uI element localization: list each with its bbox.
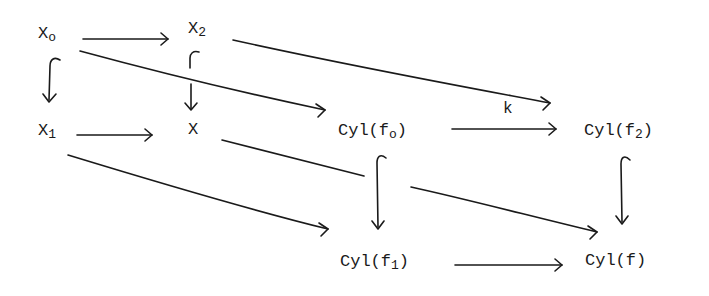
node-cylf: Cyl(f) — [585, 252, 646, 269]
inclusion-x0-to-x1 — [43, 58, 60, 102]
node-cylf1: Cyl(f1) — [340, 253, 409, 270]
node-cylf1-sub: 1 — [391, 258, 399, 273]
node-x: X — [188, 121, 198, 138]
commutative-diagram: Xo X2 X1 X Cyl(fo) Cyl(f2) Cyl(f1) Cyl(f… — [0, 0, 709, 296]
arrow-x-to-cylf — [222, 140, 597, 239]
node-cylf1-close: ) — [399, 252, 409, 271]
node-x1: X1 — [38, 122, 56, 139]
node-x2: X2 — [188, 20, 206, 37]
arrow-x1-to-x — [77, 129, 152, 141]
arrow-cylf1-to-cylf — [455, 259, 562, 271]
node-cylf2-base: Cyl(f — [584, 121, 635, 140]
arrow-x0-to-x2 — [83, 33, 168, 45]
arrow-cylf0-to-cylf2 — [452, 123, 556, 135]
node-x1-sub: 1 — [48, 127, 56, 142]
node-x0-base: X — [38, 24, 48, 43]
arrow-x0-to-cylf0 — [80, 51, 325, 117]
node-x0: Xo — [38, 25, 56, 42]
node-cylf0: Cyl(fo) — [338, 122, 407, 139]
inclusion-cylf2-to-cylf — [616, 157, 630, 224]
edge-label-k: k — [503, 101, 513, 117]
node-cylf2-close: ) — [643, 121, 653, 140]
node-x0-sub: o — [48, 30, 56, 45]
node-cylf0-base: Cyl(f — [338, 121, 389, 140]
inclusion-cylf0-to-cylf1 — [372, 156, 386, 229]
node-cylf2: Cyl(f2) — [584, 122, 653, 139]
node-cylf0-sub: o — [389, 127, 397, 142]
node-x-base: X — [188, 120, 198, 139]
node-cylf-base: Cyl(f) — [585, 251, 646, 270]
node-x2-sub: 2 — [198, 25, 206, 40]
arrow-x1-to-cylf1 — [68, 155, 328, 236]
node-cylf2-sub: 2 — [635, 127, 643, 142]
node-cylf1-base: Cyl(f — [340, 252, 391, 271]
node-x2-base: X — [188, 19, 198, 38]
node-x1-base: X — [38, 121, 48, 140]
node-cylf0-close: ) — [397, 121, 407, 140]
